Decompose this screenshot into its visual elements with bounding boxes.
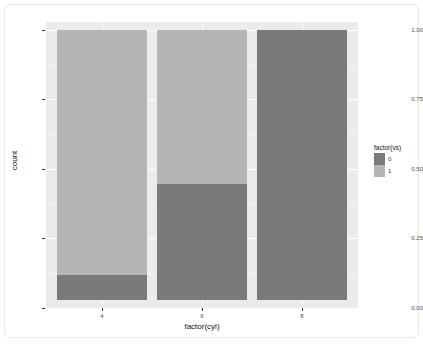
bar-segment-6-vs1[interactable] <box>157 30 247 184</box>
x-axis-title: factor(cyl) <box>46 322 358 331</box>
y-tick-mark-0.25 <box>42 238 45 239</box>
legend-item-1[interactable]: 1 <box>374 165 420 177</box>
bar-segment-4-vs0[interactable] <box>57 275 147 300</box>
bar-group-6[interactable] <box>157 30 247 300</box>
y-tick-label-1.00: 1.00 <box>385 26 423 34</box>
x-tick-label-6: 6 <box>182 312 222 320</box>
y-tick-label-0.25: 0.25 <box>385 234 423 242</box>
x-tick-label-4: 4 <box>82 312 122 320</box>
bar-group-4[interactable] <box>57 30 147 300</box>
y-tick-label-0.00: 0.00 <box>385 304 423 312</box>
y-tick-mark-0.50 <box>42 169 45 170</box>
y-tick-label-0.75: 0.75 <box>385 95 423 103</box>
x-tick-label-8: 8 <box>282 312 322 320</box>
y-tick-mark-0.00 <box>42 308 45 309</box>
legend-label-0: 0 <box>388 153 391 165</box>
plot-panel <box>46 22 358 308</box>
y-tick-mark-1.00 <box>42 30 45 31</box>
y-axis-title: count <box>10 141 19 181</box>
bar-group-8[interactable] <box>257 30 347 300</box>
legend-key-swatch-1 <box>374 165 385 177</box>
legend-key-swatch-0 <box>374 153 385 165</box>
bar-segment-6-vs0[interactable] <box>157 184 247 300</box>
ggplot-figure: 1.00 0.75 0.50 0.25 0.00 count 4 6 8 fac… <box>0 0 423 346</box>
chart-screenshot: 1.00 0.75 0.50 0.25 0.00 count 4 6 8 fac… <box>0 0 423 346</box>
legend-item-0[interactable]: 0 <box>374 153 420 165</box>
x-tick-mark-6 <box>202 308 203 311</box>
bars-layer <box>46 22 358 308</box>
legend-label-1: 1 <box>388 165 391 177</box>
legend-title: factor(vs) <box>374 143 420 152</box>
x-tick-mark-4 <box>102 308 103 311</box>
x-tick-mark-8 <box>302 308 303 311</box>
bar-segment-8-vs0[interactable] <box>257 30 347 300</box>
y-tick-mark-0.75 <box>42 99 45 100</box>
legend: factor(vs) 0 1 <box>374 143 420 177</box>
bar-segment-4-vs1[interactable] <box>57 30 147 275</box>
